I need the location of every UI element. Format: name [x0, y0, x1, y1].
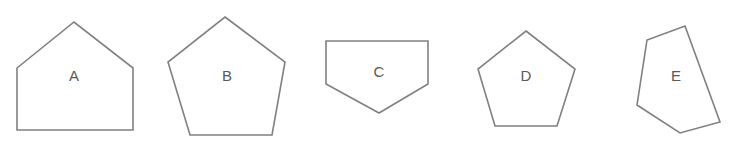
shape-label-c: C	[374, 63, 385, 80]
shape-group-b[interactable]: B	[168, 17, 285, 135]
shape-group-c[interactable]: C	[326, 41, 428, 113]
shapes-svg: A B C D E	[0, 0, 732, 152]
shape-group-a[interactable]: A	[17, 22, 133, 130]
shape-label-a: A	[69, 67, 79, 84]
shape-label-e: E	[671, 67, 681, 84]
shape-group-d[interactable]: D	[478, 31, 575, 126]
shape-label-b: B	[222, 67, 232, 84]
shape-figure-canvas: A B C D E	[0, 0, 732, 152]
shape-label-d: D	[521, 67, 532, 84]
shape-group-e[interactable]: E	[637, 26, 720, 133]
